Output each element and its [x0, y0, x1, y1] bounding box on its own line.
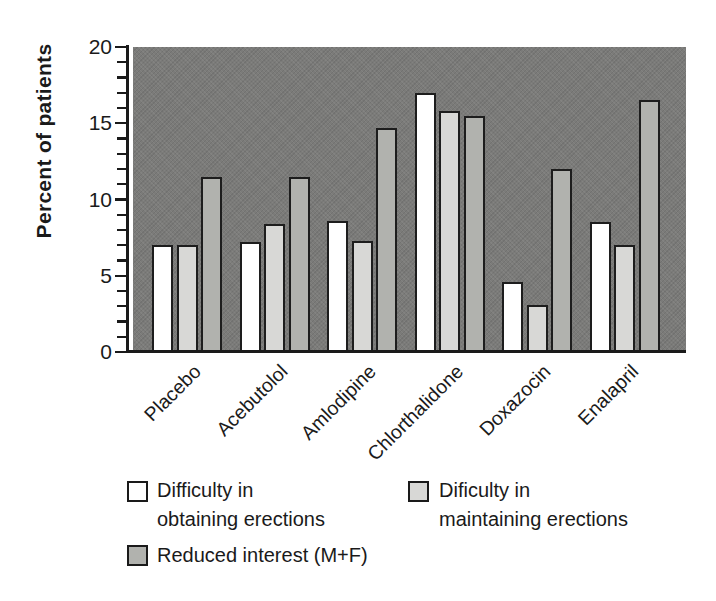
legend-label-reduced-interest: Reduced interest (M+F)	[157, 541, 368, 570]
bar-doxazocin-series3	[551, 169, 572, 352]
bar-chart-figure: Percent of patients Difficulty in obtain…	[0, 0, 716, 601]
bar-enalapril-series1	[590, 222, 611, 352]
y-tick-label: 15	[64, 111, 112, 135]
y-minor-tick	[117, 92, 127, 94]
y-major-tick	[115, 198, 127, 200]
y-major-tick	[115, 122, 127, 124]
y-major-tick	[115, 46, 127, 48]
y-minor-tick	[117, 168, 127, 170]
bar-enalapril-series3	[639, 100, 660, 352]
bar-placebo-series1	[152, 245, 173, 352]
bar-doxazocin-series1	[502, 282, 523, 352]
legend-swatch-maintaining	[408, 481, 429, 502]
bar-amlodipine-series1	[327, 221, 348, 352]
bar-acebutolol-series2	[264, 224, 285, 352]
legend-label-reduced-interest-line1: Reduced interest (M+F)	[157, 541, 368, 570]
y-minor-tick	[117, 336, 127, 338]
bar-placebo-series3	[201, 177, 222, 352]
x-category-label-amlodipine: Amlodipine	[296, 360, 380, 444]
y-axis-title: Percent of patients	[32, 44, 56, 239]
y-minor-tick	[117, 320, 127, 322]
bar-chlorthalidone-series3	[464, 116, 485, 352]
legend-label-obtaining-line2: obtaining erections	[157, 505, 325, 534]
legend-label-maintaining-line1: Dificulty in	[439, 476, 628, 505]
legend-label-obtaining-line1: Difficulty in	[157, 476, 325, 505]
legend-label-maintaining-line2: maintaining erections	[439, 505, 628, 534]
bar-enalapril-series2	[614, 245, 635, 352]
y-tick-label: 5	[64, 264, 112, 288]
y-minor-tick	[117, 244, 127, 246]
bar-chlorthalidone-series1	[415, 93, 436, 352]
y-minor-tick	[117, 76, 127, 78]
bar-placebo-series2	[177, 245, 198, 352]
bar-amlodipine-series3	[376, 128, 397, 352]
legend-label-obtaining: Difficulty in obtaining erections	[157, 476, 325, 534]
x-axis-line	[126, 350, 686, 353]
y-minor-tick	[117, 259, 127, 261]
legend-swatch-reduced-interest	[127, 545, 148, 566]
bar-chlorthalidone-series2	[439, 111, 460, 352]
y-minor-tick	[117, 229, 127, 231]
bar-amlodipine-series2	[352, 241, 373, 352]
y-minor-tick	[117, 214, 127, 216]
legend-swatch-obtaining	[127, 481, 148, 502]
y-minor-tick	[117, 290, 127, 292]
x-category-label-enalapril: Enalapril	[573, 360, 643, 430]
y-minor-tick	[117, 153, 127, 155]
x-category-label-placebo: Placebo	[139, 360, 205, 426]
y-minor-tick	[117, 137, 127, 139]
legend-label-maintaining: Dificulty in maintaining erections	[439, 476, 628, 534]
bar-acebutolol-series3	[289, 177, 310, 352]
y-minor-tick	[117, 305, 127, 307]
y-minor-tick	[117, 107, 127, 109]
x-category-label-acebutolol: Acebutolol	[212, 360, 293, 441]
x-category-label-doxazocin: Doxazocin	[475, 360, 556, 441]
bar-doxazocin-series2	[527, 305, 548, 352]
y-minor-tick	[117, 61, 127, 63]
bar-acebutolol-series1	[240, 242, 261, 352]
y-tick-label: 10	[64, 188, 112, 212]
y-minor-tick	[117, 183, 127, 185]
y-tick-label: 20	[64, 35, 112, 59]
y-tick-label: 0	[64, 340, 112, 364]
y-major-tick	[115, 275, 127, 277]
